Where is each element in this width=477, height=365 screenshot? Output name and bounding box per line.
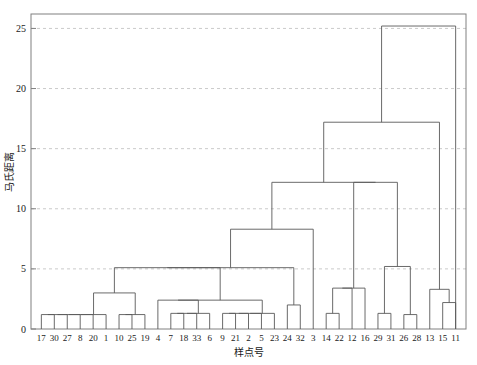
dendrogram-links: [41, 26, 455, 329]
dendrogram-link: [250, 313, 274, 329]
leaf-label: 8: [78, 333, 83, 343]
plot-border: [31, 14, 466, 329]
leaf-label: 11: [451, 333, 460, 343]
dendrogram-link: [158, 300, 198, 329]
leaf-label: 24: [283, 333, 293, 343]
leaf-label: 27: [63, 333, 73, 343]
x-axis-title: 样点号: [234, 346, 264, 358]
dendrogram-link: [126, 315, 145, 329]
leaf-label: 16: [361, 333, 371, 343]
leaf-label: 13: [425, 333, 435, 343]
y-tick-label: 10: [16, 203, 26, 214]
leaf-label: 1: [104, 333, 109, 343]
dendrogram-link: [177, 313, 196, 329]
dendrogram-link: [48, 315, 67, 329]
dendrogram-link: [378, 313, 391, 329]
dendrogram-link: [384, 266, 410, 314]
leaf-label: 3: [311, 333, 316, 343]
leaf-label: 21: [231, 333, 240, 343]
y-tick-label: 20: [16, 83, 26, 94]
leaf-label: 2: [246, 333, 251, 343]
leaf-label: 15: [438, 333, 448, 343]
leaf-label: 4: [156, 333, 161, 343]
dendrogram-link: [239, 313, 262, 329]
dendrogram-link: [342, 288, 365, 329]
leaf-label: 14: [322, 333, 332, 343]
dendrogram-link: [58, 315, 81, 329]
y-tick-label: 15: [16, 143, 26, 154]
y-axis-title: 马氏距离: [3, 152, 15, 192]
leaf-label: 19: [140, 333, 150, 343]
plot-frame: [31, 14, 466, 329]
y-axis-ticks: 0510152025: [16, 23, 36, 335]
grid-lines: [31, 28, 466, 268]
y-tick-label: 0: [21, 324, 26, 335]
leaf-label: 20: [89, 333, 99, 343]
dendrogram-link: [231, 229, 314, 329]
leaf-label: 33: [192, 333, 202, 343]
dendrogram-link: [287, 305, 300, 329]
leaf-label: 31: [386, 333, 395, 343]
leaf-label: 9: [220, 333, 225, 343]
dendrogram-link: [324, 122, 440, 289]
leaf-label: 32: [296, 333, 305, 343]
leaf-label: 10: [115, 333, 125, 343]
dendrogram-link: [171, 313, 184, 329]
dendrogram-link: [229, 313, 248, 329]
dendrogram-link: [333, 288, 352, 329]
y-tick-label: 25: [16, 23, 26, 34]
leaf-label: 12: [348, 333, 357, 343]
dendrogram-link: [69, 315, 93, 329]
dendrogram-link: [430, 289, 449, 329]
dendrogram-link: [114, 268, 220, 300]
dendrogram-link: [94, 293, 136, 315]
y-tick-label: 5: [21, 263, 26, 274]
leaf-label: 5: [259, 333, 264, 343]
dendrogram-link: [326, 313, 339, 329]
leaf-label: 25: [127, 333, 137, 343]
leaf-label: 6: [207, 333, 212, 343]
leaf-label: 29: [373, 333, 383, 343]
dendrogram-link: [178, 300, 262, 313]
leaf-label: 17: [37, 333, 47, 343]
leaf-label: 7: [169, 333, 174, 343]
dendrogram-link: [404, 315, 417, 329]
leaf-labels: 1730278201102519471833692125232432314221…: [37, 333, 460, 343]
dendrogram-link: [187, 313, 210, 329]
dendrogram-link: [443, 303, 456, 329]
leaf-label: 30: [50, 333, 60, 343]
leaf-label: 26: [399, 333, 409, 343]
axis-titles: 马氏距离 样点号: [3, 152, 264, 359]
dendrogram-link: [382, 26, 456, 329]
leaf-label: 18: [179, 333, 189, 343]
dendrogram-link: [41, 315, 54, 329]
dendrogram-link: [167, 268, 294, 305]
dendrogram-link: [354, 182, 398, 288]
dendrogram-link: [272, 182, 376, 229]
leaf-label: 28: [412, 333, 422, 343]
dendrogram-canvas: 0510152025 17302782011025194718336921252…: [0, 0, 477, 365]
leaf-label: 23: [270, 333, 280, 343]
dendrogram-link: [119, 315, 132, 329]
dendrogram-link: [223, 313, 236, 329]
dendrogram-figure: 0510152025 17302782011025194718336921252…: [0, 0, 477, 365]
leaf-label: 22: [335, 333, 344, 343]
